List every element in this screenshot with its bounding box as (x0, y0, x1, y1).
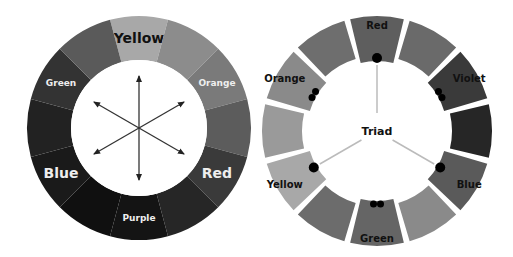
triad-segment-red: Red (350, 16, 404, 63)
segment-label: Orange (264, 73, 305, 84)
triad-label: Triad (362, 125, 393, 138)
marker-dot (312, 88, 319, 95)
triad-wheel-graphic: RedVioletBlueGreenYellowOrangeTriad (256, 0, 513, 257)
marker-dot (309, 94, 316, 101)
segment-label: Green (360, 233, 394, 244)
triad-marker-dot (435, 163, 445, 173)
triad-connector-line (320, 140, 362, 164)
segment-label: Red (366, 20, 388, 31)
segment-label: Blue (44, 165, 79, 181)
marker-dot (438, 94, 445, 101)
segment-label: Yellow (113, 30, 165, 46)
segment-label: Red (202, 165, 232, 181)
segment-label: Violet (453, 73, 486, 84)
triad-marker-dot (372, 53, 382, 63)
color-wheel-graphic: YellowOrangeRedPurpleBlueGreen (0, 0, 256, 257)
triad-color-wheel: RedVioletBlueGreenYellowOrangeTriad Tria… (256, 0, 513, 257)
segment-label: Yellow (266, 179, 303, 190)
triad-segment-green: Green (350, 199, 404, 246)
segment-label: Purple (122, 213, 155, 223)
marker-dot (370, 201, 377, 208)
segment-label: Blue (457, 179, 482, 190)
triad-segment-tertiary-3 (450, 104, 492, 158)
segment-label: Green (46, 78, 76, 88)
triad-connector-line (393, 140, 435, 164)
marker-dot (435, 88, 442, 95)
complementary-color-wheel: YellowOrangeRedPurpleBlueGreen (0, 0, 256, 257)
triad-marker-dot (309, 163, 319, 173)
marker-dot (377, 201, 384, 208)
segment-label: Orange (198, 78, 235, 88)
triad-segment-tertiary-9 (262, 104, 304, 158)
